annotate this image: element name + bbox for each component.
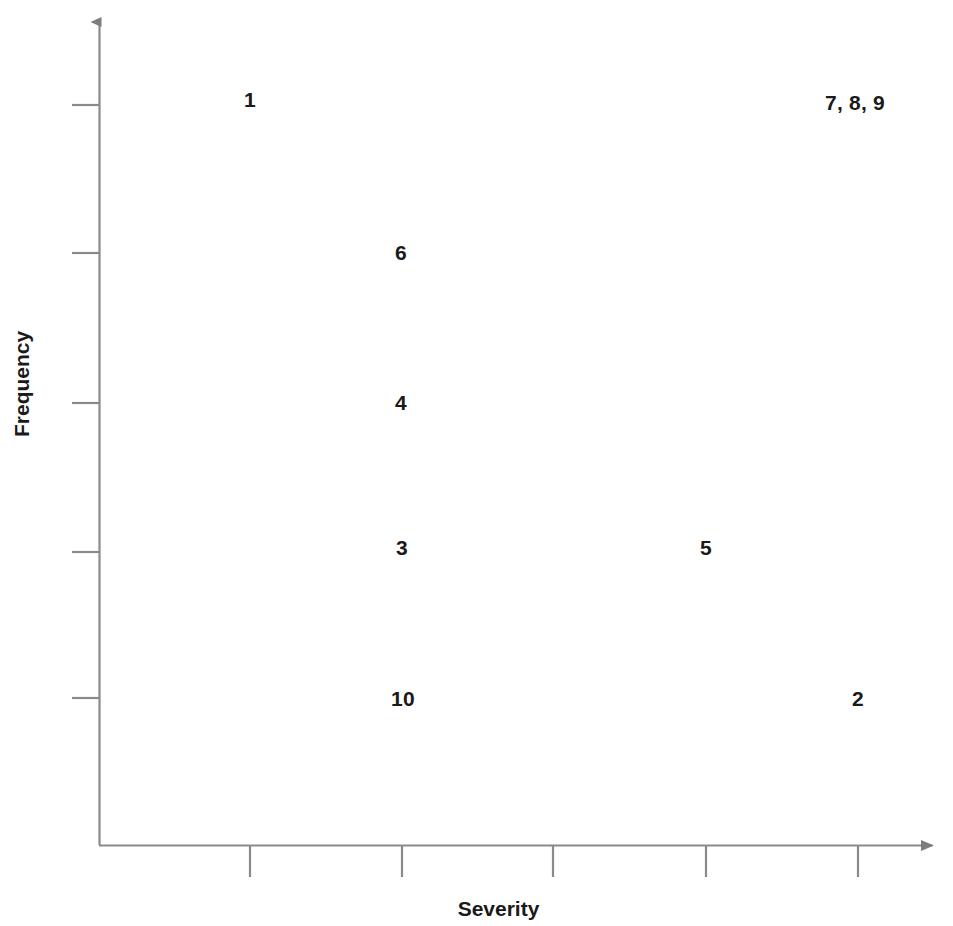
data-point-label: 4 — [395, 391, 407, 415]
data-point-label: 5 — [700, 536, 712, 560]
data-point-label: 2 — [852, 687, 864, 711]
risk-matrix-chart: 1 7, 8, 9 6 4 3 5 10 2 Frequency Severit… — [0, 0, 953, 926]
y-axis-ticks — [72, 105, 100, 698]
data-point-label: 1 — [244, 88, 256, 112]
data-point-label: 7, 8, 9 — [825, 91, 885, 115]
data-point-label: 6 — [395, 241, 407, 265]
chart-axes — [0, 0, 953, 926]
y-axis-title: Frequency — [10, 331, 34, 437]
data-point-label: 3 — [396, 536, 408, 560]
x-axis-ticks — [250, 845, 858, 877]
data-point-label: 10 — [391, 687, 415, 711]
x-axis-title-text: Severity — [458, 897, 540, 920]
x-axis-title: Severity — [0, 897, 953, 921]
